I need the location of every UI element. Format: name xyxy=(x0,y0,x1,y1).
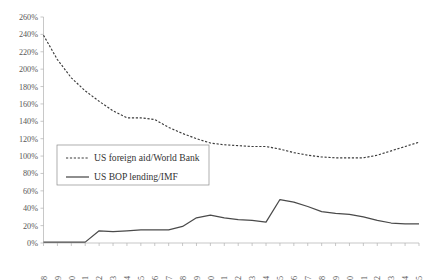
x-axis-tick-label: 1996 xyxy=(290,276,299,280)
x-axis-tick-label: 1985 xyxy=(137,276,146,280)
x-axis-tick-label: 1986 xyxy=(151,276,160,280)
y-axis: 0%20%40%60%80%100%120%140%160%180%200%22… xyxy=(19,13,44,248)
x-axis-tick-label: 2000 xyxy=(346,276,355,280)
x-axis-tick-label: 2002 xyxy=(373,276,382,280)
line-chart: 0%20%40%60%80%100%120%140%160%180%200%22… xyxy=(0,0,424,280)
chart-container: 0%20%40%60%80%100%120%140%160%180%200%22… xyxy=(0,0,424,280)
series-line xyxy=(44,35,420,158)
x-axis-tick-label: 1988 xyxy=(179,276,188,280)
x-axis-tick-label: 1982 xyxy=(95,276,104,280)
y-axis-tick-label: 180% xyxy=(19,83,38,92)
x-axis: 1978197919801981198219831984198519861987… xyxy=(40,243,424,280)
legend-label: US foreign aid/World Bank xyxy=(94,152,200,163)
data-series-group xyxy=(44,35,420,242)
y-axis-tick-label: 200% xyxy=(19,65,38,74)
y-axis-tick-label: 140% xyxy=(19,117,38,126)
x-axis-tick-label: 1995 xyxy=(276,276,285,280)
x-axis-tick-label: 1991 xyxy=(220,276,229,280)
x-axis-tick-label: 1993 xyxy=(248,276,257,280)
x-axis-tick-label: 2001 xyxy=(360,276,369,280)
legend-label: US BOP lending/IMF xyxy=(94,171,178,182)
chart-legend: US foreign aid/World BankUS BOP lending/… xyxy=(57,145,209,185)
x-axis-tick-label: 2005 xyxy=(415,276,424,280)
y-axis-tick-label: 80% xyxy=(23,169,38,178)
y-axis-tick-label: 260% xyxy=(19,13,38,22)
y-axis-tick-label: 220% xyxy=(19,48,38,57)
series-line xyxy=(44,200,420,243)
x-axis-tick-label: 1994 xyxy=(262,276,271,280)
y-axis-tick-label: 160% xyxy=(19,100,38,109)
x-axis-tick-label: 2003 xyxy=(387,276,396,280)
x-axis-tick-label: 1978 xyxy=(40,276,49,280)
x-axis-tick-label: 1987 xyxy=(165,276,174,280)
x-axis-tick-label: 1989 xyxy=(193,276,202,280)
y-axis-tick-label: 40% xyxy=(23,204,38,213)
x-axis-tick-label: 1979 xyxy=(54,276,63,280)
y-axis-tick-label: 60% xyxy=(23,187,38,196)
x-axis-tick-label: 1981 xyxy=(81,276,90,280)
y-axis-tick-label: 100% xyxy=(19,152,38,161)
x-axis-tick-label: 1990 xyxy=(207,276,216,280)
x-axis-tick-label: 1980 xyxy=(68,276,77,280)
x-axis-tick-label: 1999 xyxy=(332,276,341,280)
y-axis-tick-label: 20% xyxy=(23,222,38,231)
y-axis-tick-label: 0% xyxy=(27,239,38,248)
y-axis-tick-label: 240% xyxy=(19,30,38,39)
x-axis-tick-label: 1992 xyxy=(234,276,243,280)
x-axis-tick-label: 1998 xyxy=(318,276,327,280)
y-axis-tick-label: 120% xyxy=(19,135,38,144)
x-axis-tick-label: 2004 xyxy=(401,276,410,280)
x-axis-tick-label: 1983 xyxy=(109,276,118,280)
x-axis-tick-label: 1984 xyxy=(123,276,132,280)
x-axis-tick-label: 1997 xyxy=(304,276,313,280)
